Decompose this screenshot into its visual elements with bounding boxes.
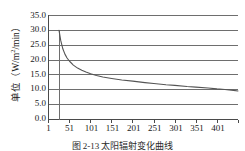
x-tick-label: 401 [203, 123, 233, 133]
chart-figure: 单位（W/m2/min） 35.0 30.0 25.0 20.0 15.0 10… [0, 0, 245, 151]
figure-caption: 图 2-13 太阳辐射变化曲线 [0, 141, 245, 151]
x-axis-ticks: 1 51 101 151 201 251 301 351 401 [0, 0, 245, 151]
